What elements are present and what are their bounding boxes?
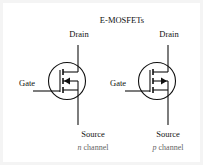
n-arrow-icon [64, 78, 70, 85]
n-drain-label: Drain [69, 29, 89, 39]
n-source-label: Source [81, 129, 105, 139]
p-channel-symbol: Drain Gate Source p channel [110, 29, 184, 152]
p-source-label: Source [156, 129, 180, 139]
n-channel-symbol: Drain Gate Source n channel [19, 29, 109, 152]
n-gate-label: Gate [19, 78, 35, 88]
p-channel-caption: p channel [152, 143, 185, 152]
p-gate-label: Gate [110, 78, 126, 88]
mosfet-diagram: E-MOSFETs Drain Gate Source n channel Dr… [0, 0, 203, 165]
n-channel-caption: n channel [78, 143, 110, 152]
p-drain-label: Drain [159, 29, 179, 39]
p-arrow-icon [161, 78, 167, 85]
diagram-title: E-MOSFETs [100, 15, 144, 25]
